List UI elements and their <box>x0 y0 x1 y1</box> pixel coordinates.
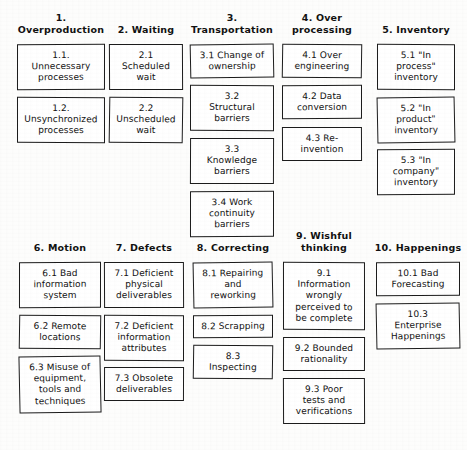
waste-item-5-3[interactable]: 5.3 "In company" inventory <box>377 149 455 195</box>
category-title-10: 10. Happenings <box>375 230 462 253</box>
waste-item-9-2[interactable]: 9.2 Bounded rationality <box>283 337 365 372</box>
waste-item-1-2[interactable]: 1.2. Unsynchronized processes <box>17 96 105 142</box>
category-column-2: 2. Waiting 2.1 Scheduled wait 2.2 Unsche… <box>104 12 184 142</box>
waste-item-4-2[interactable]: 4.2 Data conversion <box>282 85 362 120</box>
category-items-2: 2.1 Scheduled wait 2.2 Unscheduled wait <box>108 44 184 142</box>
waste-item-2-1[interactable]: 2.1 Scheduled wait <box>109 44 183 90</box>
category-items-10: 10.1 Bad Forecasting 10.3 Enterprise Hap… <box>372 262 464 349</box>
waste-item-1-1[interactable]: 1.1. Unnecessary processes <box>17 44 105 90</box>
waste-item-8-2[interactable]: 8.2 Scrapping <box>193 314 273 338</box>
category-items-3: 3.1 Change of ownership 3.2 Structural b… <box>188 44 276 236</box>
category-items-9: 9.1 Information wrongly perceived to be … <box>280 262 368 424</box>
waste-item-7-3[interactable]: 7.3 Obsolete deliverables <box>104 367 184 402</box>
waste-item-3-1[interactable]: 3.1 Change of ownership <box>190 44 275 79</box>
diagram-row-top: 1. Overproduction 1.1. Unnecessary proce… <box>0 12 467 236</box>
category-items-1: 1.1. Unnecessary processes 1.2. Unsynchr… <box>18 44 104 142</box>
category-column-4: 4. Over processing 4.1 Over engineering … <box>276 12 364 161</box>
category-title-4: 4. Over processing <box>292 12 352 35</box>
waste-item-10-2[interactable]: 10.3 Enterprise Happenings <box>376 303 461 349</box>
waste-item-8-3[interactable]: 8.3 Inspecting <box>193 344 274 379</box>
waste-item-6-2[interactable]: 6.2 Remote locations <box>19 314 102 349</box>
category-title-3: 3. Transportation <box>191 12 273 35</box>
waste-item-2-2[interactable]: 2.2 Unscheduled wait <box>109 96 184 142</box>
diagram-row-bottom: 6. Motion 6.1 Bad information system 6.2… <box>0 230 467 424</box>
category-title-2: 2. Waiting <box>118 12 175 35</box>
waste-item-4-1[interactable]: 4.1 Over engineering <box>282 44 363 79</box>
category-column-3: 3. Transportation 3.1 Change of ownershi… <box>184 12 276 236</box>
waste-item-7-2[interactable]: 7.2 Deficient information attributes <box>104 314 184 360</box>
category-items-8: 8.1 Repairing and reworking 8.2 Scrappin… <box>190 262 276 379</box>
category-title-1: 1. Overproduction <box>18 12 105 35</box>
category-items-5: 5.1 "In process" inventory 5.2 "In produ… <box>368 44 464 195</box>
category-title-9: 9. Wishful thinking <box>296 230 352 253</box>
category-column-9: 9. Wishful thinking 9.1 Information wron… <box>276 230 368 424</box>
category-column-8: 8. Correcting 8.1 Repairing and reworkin… <box>186 230 276 379</box>
category-title-6: 6. Motion <box>34 230 86 253</box>
waste-item-6-1[interactable]: 6.1 Bad information system <box>19 262 101 308</box>
diagram-sheet: 1. Overproduction 1.1. Unnecessary proce… <box>0 0 467 450</box>
category-items-7: 7.1 Deficient physical deliverables 7.2 … <box>102 262 186 402</box>
category-column-1: 1. Overproduction 1.1. Unnecessary proce… <box>0 12 104 142</box>
category-items-6: 6.1 Bad information system 6.2 Remote lo… <box>20 262 100 413</box>
category-column-7: 7. Defects 7.1 Deficient physical delive… <box>100 230 186 402</box>
waste-item-3-2[interactable]: 3.2 Structural barriers <box>190 85 274 131</box>
waste-item-8-1[interactable]: 8.1 Repairing and reworking <box>193 262 274 308</box>
waste-item-4-3[interactable]: 4.3 Re- invention <box>282 127 362 161</box>
waste-item-3-3[interactable]: 3.3 Knowledge barriers <box>190 138 274 184</box>
waste-item-6-3[interactable]: 6.3 Misuse of equipment, tools and techn… <box>18 356 101 414</box>
category-column-6: 6. Motion 6.1 Bad information system 6.2… <box>0 230 100 413</box>
waste-item-5-2[interactable]: 5.2 "In product" inventory <box>377 96 456 142</box>
category-column-5: 5. Inventory 5.1 "In process" inventory … <box>364 12 464 195</box>
category-title-8: 8. Correcting <box>197 230 269 253</box>
waste-item-9-3[interactable]: 9.3 Poor tests and verifications <box>283 378 365 424</box>
waste-item-7-1[interactable]: 7.1 Deficient physical deliverables <box>104 262 184 308</box>
category-items-4: 4.1 Over engineering 4.2 Data conversion… <box>280 44 364 161</box>
waste-item-5-1[interactable]: 5.1 "In process" inventory <box>377 44 455 90</box>
category-title-5: 5. Inventory <box>382 12 450 35</box>
category-column-10: 10. Happenings 10.1 Bad Forecasting 10.3… <box>368 230 464 349</box>
waste-item-10-1[interactable]: 10.1 Bad Forecasting <box>376 262 460 297</box>
category-title-7: 7. Defects <box>116 230 172 253</box>
waste-item-9-1[interactable]: 9.1 Information wrongly perceived to be … <box>283 262 365 331</box>
